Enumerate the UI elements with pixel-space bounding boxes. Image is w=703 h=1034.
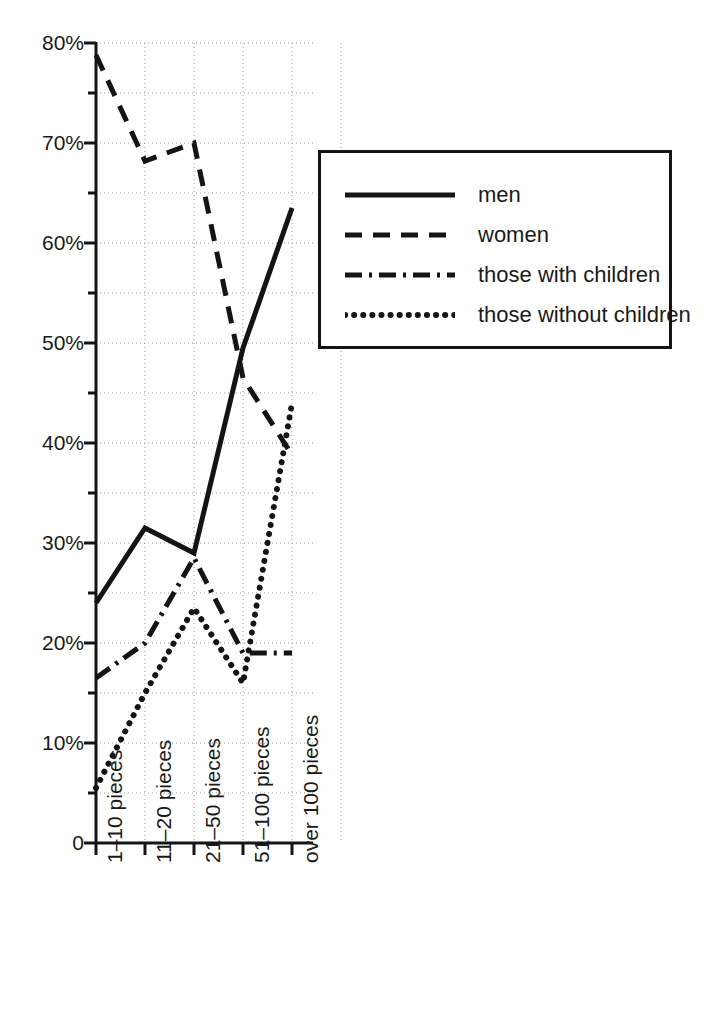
x-tick-label: over 100 pieces bbox=[300, 715, 321, 863]
legend-swatch-dotted bbox=[345, 310, 455, 320]
x-tick-label: 11–20 pieces bbox=[153, 740, 174, 863]
chart-legend: menwomenthose with childrenthose without… bbox=[318, 150, 672, 349]
x-tick-label: 21–50 pieces bbox=[202, 738, 223, 863]
legend-swatch-dashed bbox=[345, 230, 455, 240]
line-chart: 010%20%30%40%50%60%70%80% 1–10 pieces11–… bbox=[0, 0, 703, 1034]
legend-swatch-dashdot bbox=[345, 270, 455, 280]
legend-label: those without children bbox=[478, 304, 691, 326]
x-tick-label: 51–100 pieces bbox=[251, 726, 272, 863]
legend-item: those without children bbox=[321, 295, 669, 335]
legend-item: women bbox=[321, 215, 669, 255]
legend-swatch-solid bbox=[345, 190, 455, 200]
legend-item: men bbox=[321, 175, 669, 215]
legend-label: those with children bbox=[478, 264, 660, 286]
legend-label: men bbox=[478, 184, 521, 206]
x-tick-label: 1–10 pieces bbox=[104, 750, 125, 863]
legend-label: women bbox=[478, 224, 549, 246]
legend-item: those with children bbox=[321, 255, 669, 295]
